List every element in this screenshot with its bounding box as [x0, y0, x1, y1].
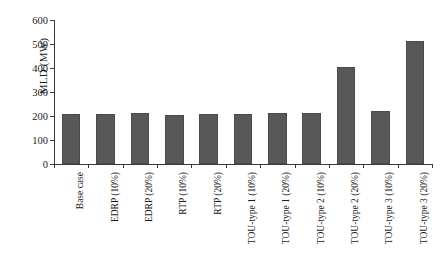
- x-tick-label: TOU-type 1 (20%): [281, 172, 291, 244]
- x-tick-label: TOU-type 3 (20%): [419, 172, 429, 244]
- y-tick-label: 300: [32, 87, 48, 98]
- y-tick-mark: [50, 140, 54, 141]
- y-tick-label: 600: [32, 15, 48, 26]
- y-tick-mark: [50, 92, 54, 93]
- x-tick-label: TOU-type 2 (20%): [350, 172, 360, 244]
- y-tick-mark: [50, 68, 54, 69]
- x-tick-mark: [295, 164, 296, 168]
- x-tick-label: TOU-type 2 (10%): [316, 172, 326, 244]
- bar: [96, 114, 115, 164]
- x-tick-label: TOU-type 3 (10%): [384, 172, 394, 244]
- x-tick-mark: [157, 164, 158, 168]
- y-tick-label: 0: [43, 159, 48, 170]
- x-tick-mark: [88, 164, 89, 168]
- x-tick-mark: [260, 164, 261, 168]
- x-tick-mark: [54, 164, 55, 168]
- x-tick-mark: [191, 164, 192, 168]
- y-tick-mark: [50, 20, 54, 21]
- y-tick-mark: [50, 44, 54, 45]
- y-tick-label: 200: [32, 111, 48, 122]
- y-tick-label: 100: [32, 135, 48, 146]
- bar: [371, 111, 390, 164]
- bar: [337, 67, 356, 164]
- bar: [406, 41, 425, 164]
- y-tick-label: 500: [32, 39, 48, 50]
- y-tick-mark: [50, 116, 54, 117]
- bar: [302, 113, 321, 164]
- y-tick-label: 400: [32, 63, 48, 74]
- x-tick-mark: [432, 164, 433, 168]
- y-axis-line: [54, 20, 55, 164]
- bar: [131, 113, 150, 164]
- bar: [234, 114, 253, 164]
- x-tick-label: EDRP (20%): [144, 172, 154, 222]
- bar: [268, 113, 287, 164]
- x-tick-mark: [363, 164, 364, 168]
- x-tick-label: Base case: [75, 172, 85, 209]
- x-tick-label: RTP (20%): [213, 172, 223, 215]
- x-tick-label: RTP (10%): [178, 172, 188, 215]
- x-tick-mark: [123, 164, 124, 168]
- plot-area: 0100200300400500600 Base caseEDRP (10%)E…: [54, 20, 432, 164]
- bar: [165, 115, 184, 164]
- x-tick-mark: [329, 164, 330, 168]
- x-axis-line: [54, 164, 432, 165]
- bar: [62, 114, 81, 164]
- x-tick-mark: [226, 164, 227, 168]
- bar-chart-figure: MLD (MW) 0100200300400500600 Base caseED…: [0, 0, 445, 271]
- x-tick-label: EDRP (10%): [110, 172, 120, 222]
- x-tick-label: TOU-type 1 (10%): [247, 172, 257, 244]
- bar: [199, 114, 218, 164]
- x-tick-mark: [398, 164, 399, 168]
